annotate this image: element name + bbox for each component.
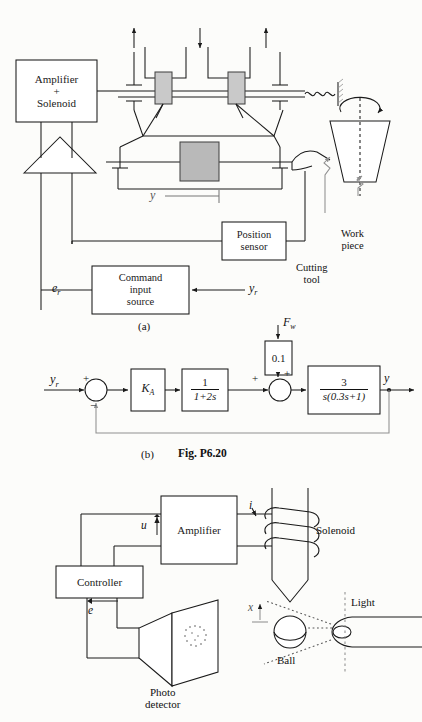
sum1-minus-sign: − <box>90 399 96 411</box>
figure-page: Amplifier + Solenoid Position sensor Com… <box>0 0 422 722</box>
solenoid-label-c: Solenoid <box>316 524 355 536</box>
output-label-b: y <box>384 371 389 386</box>
lag-denominator: 1+2s <box>191 390 220 403</box>
amplifier-solenoid-block: Amplifier + Solenoid <box>16 60 97 122</box>
reference-subscript: r <box>254 288 257 297</box>
amplifier-block-c: Amplifier <box>161 496 237 564</box>
plant-block: 3 s(0.3s+1) <box>308 366 380 414</box>
solenoid-label: Solenoid <box>35 97 78 109</box>
gain-subscript: A <box>150 388 155 397</box>
part-b-label: (b) <box>141 448 154 460</box>
photo-detector-label: Photo detector <box>145 686 180 711</box>
photo-detector-label-1: Photo <box>145 686 180 698</box>
sum2-plus-top-sign: + <box>284 367 290 379</box>
control-signal-arrow <box>150 514 164 536</box>
output-displacement-label-a: y <box>150 188 155 203</box>
displacement-label: x <box>248 601 253 613</box>
reference-input-label-b: yr <box>50 372 59 389</box>
cutting-tool-label-1: Cutting <box>296 262 328 274</box>
disturbance-gain-value: 0.1 <box>272 352 286 364</box>
photo-detector-label-2: detector <box>145 698 180 710</box>
cutting-tool-label: Cutting tool <box>296 262 328 286</box>
control-signal-label: u <box>141 519 147 531</box>
command-input-source-block: Command input source <box>92 266 189 314</box>
sum1-plus-sign: + <box>83 372 89 384</box>
reference-input-label-a: yr <box>249 281 257 297</box>
plant-numerator: 3 <box>320 377 369 390</box>
error-signal-arrow <box>86 596 120 608</box>
command-label-2: input <box>119 284 163 296</box>
light-label: Light <box>351 596 375 608</box>
plus-symbol: + <box>35 85 78 97</box>
lag-block: 1 1+2s <box>182 369 228 411</box>
amplifier-label: Amplifier <box>35 73 78 85</box>
position-sensor-label-2: sensor <box>237 241 271 253</box>
gain-symbol: K <box>142 381 150 395</box>
gain-block: KA <box>131 369 165 411</box>
plant-denominator: s(0.3s+1) <box>320 390 369 403</box>
disturbance-subscript: w <box>290 322 295 331</box>
lag-numerator: 1 <box>191 377 220 390</box>
disturbance-label: Fw <box>283 315 296 331</box>
command-label-1: Command <box>119 272 163 284</box>
part-a-label: (a) <box>138 320 150 332</box>
ball-label: Ball <box>277 654 295 666</box>
position-sensor-block: Position sensor <box>222 222 286 260</box>
current-label: i <box>249 499 252 511</box>
reference-subscript-b: r <box>56 380 59 389</box>
cutting-tool-label-2: tool <box>296 274 328 286</box>
work-piece-label-2: piece <box>341 240 364 252</box>
error-signal-label-a: er <box>52 281 60 297</box>
sum2-plus-left-sign: + <box>252 372 258 384</box>
position-sensor-label-1: Position <box>237 229 271 241</box>
error-subscript: r <box>57 288 60 297</box>
work-piece-label: Work piece <box>341 228 364 252</box>
command-label-3: source <box>119 296 163 308</box>
amplifier-label-c: Amplifier <box>177 524 220 536</box>
work-piece-label-1: Work <box>341 228 364 240</box>
controller-label: Controller <box>77 576 122 588</box>
controller-block: Controller <box>56 566 143 598</box>
figure-caption: Fig. P6.20 <box>178 447 227 459</box>
